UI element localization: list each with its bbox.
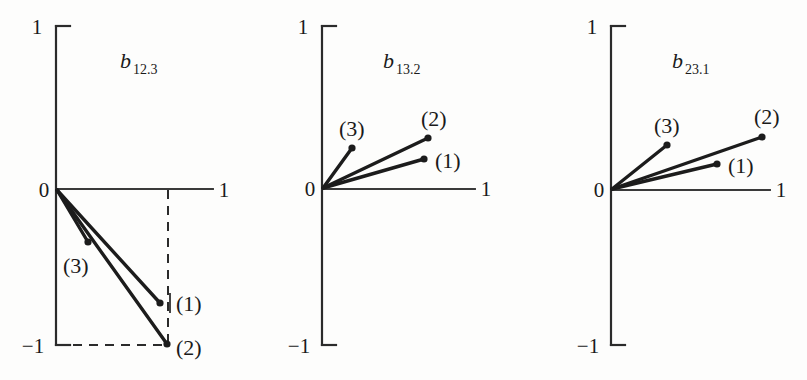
vector-1-endpoint-dot [420,155,427,162]
vector-2-label: (2) [754,104,780,129]
vector-3-line [57,190,88,242]
vector-2-label: (2) [421,106,447,131]
panel-title-base: b [672,48,683,73]
panel-2-canvas: 1 −1 0 1 (1) (2) (3) b13.2 [269,0,538,380]
vector-1-label: (1) [435,148,461,173]
vector-1-label: (1) [728,153,754,178]
y-axis-top-label: 1 [298,15,309,39]
vector-3-endpoint-dot [348,144,355,151]
panel-1-canvas: 1 −1 0 1 (1) (2) (3) b12.3 [0,0,269,380]
panel-b13-2: 1 −1 0 1 (1) (2) (3) b13.2 [269,0,538,380]
y-axis-top-label: 1 [587,15,598,39]
panel-title-base: b [383,48,394,73]
panel-title-subscript: 13.2 [396,62,421,77]
vector-1-line [57,190,160,303]
y-axis-bottom-label: −1 [288,334,310,358]
y-axis-bottom-label: −1 [577,334,599,358]
vector-1-endpoint-dot [713,160,720,167]
origin-label: 0 [594,178,605,202]
vector-2-label: (2) [176,335,202,360]
vector-2-endpoint-dot [758,133,765,140]
panel-title: b12.3 [120,48,158,77]
vector-diagram-figure: 1 −1 0 1 (1) (2) (3) b12.3 [0,0,807,380]
vector-1-label: (1) [176,291,202,316]
x-axis-end-label: 1 [481,177,492,201]
vector-3-label: (3) [63,253,89,278]
panel-title-subscript: 23.1 [685,62,710,77]
origin-label: 0 [305,177,316,201]
vector-3-endpoint-dot [84,238,91,245]
origin-label: 0 [39,178,50,202]
x-axis-end-label: 1 [219,178,230,202]
vector-3-endpoint-dot [663,141,670,148]
y-axis-bottom-label: −1 [22,334,44,358]
vector-3-label: (3) [339,116,365,141]
y-axis-top-label: 1 [32,15,43,39]
panel-title: b13.2 [383,48,421,77]
vector-2-endpoint-dot [163,340,170,347]
vector-1-endpoint-dot [156,299,163,306]
vector-3-label: (3) [654,113,680,138]
panel-b12-3: 1 −1 0 1 (1) (2) (3) b12.3 [0,0,269,380]
panel-title-base: b [120,48,131,73]
panel-b23-1: 1 −1 0 1 (1) (2) (3) b23.1 [538,0,807,380]
panel-title-subscript: 12.3 [133,62,158,77]
vector-2-endpoint-dot [424,134,431,141]
panel-title: b23.1 [672,48,710,77]
panel-3-canvas: 1 −1 0 1 (1) (2) (3) b23.1 [538,0,807,380]
x-axis-end-label: 1 [776,178,787,202]
